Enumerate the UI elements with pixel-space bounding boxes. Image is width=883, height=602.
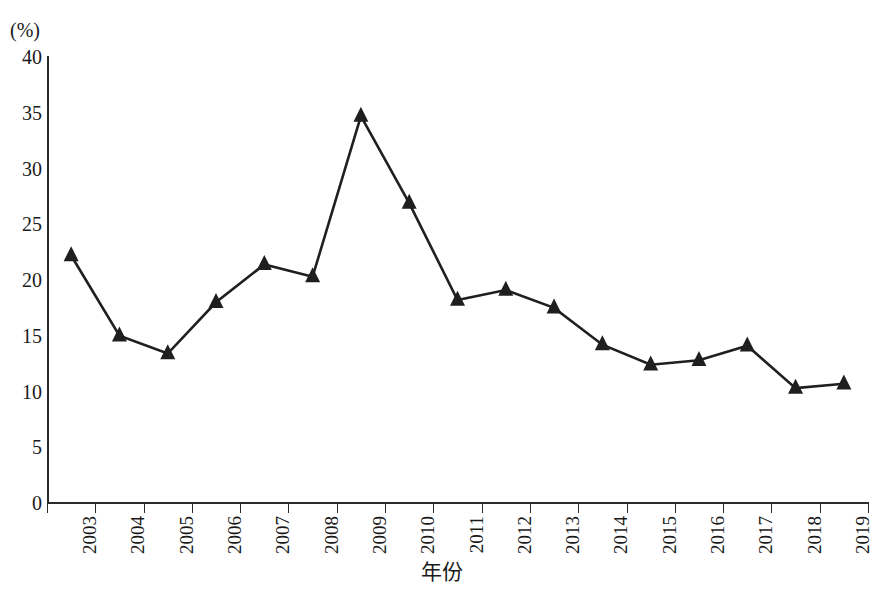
- x-tick-label-2016: 2016: [708, 516, 727, 554]
- x-tick-mark: [95, 504, 96, 513]
- x-tick-mark: [240, 504, 241, 513]
- y-tick-label-20: 20: [2, 270, 42, 290]
- line-series-svg: [47, 57, 868, 503]
- x-axis-title: 年份: [0, 562, 883, 583]
- x-tick-mark: [771, 504, 772, 513]
- x-tick-label-2003: 2003: [80, 516, 99, 554]
- data-point-2012: [498, 281, 513, 296]
- plot-area: [47, 57, 868, 503]
- x-tick-label-2014: 2014: [611, 516, 630, 554]
- x-tick-mark: [675, 504, 676, 513]
- x-tick-label-2015: 2015: [660, 516, 679, 554]
- data-point-2017: [740, 336, 755, 351]
- x-tick-label-2004: 2004: [128, 516, 147, 554]
- x-tick-label-2005: 2005: [177, 516, 196, 554]
- x-tick-label-2007: 2007: [273, 516, 292, 554]
- x-tick-mark: [47, 504, 48, 513]
- x-tick-mark: [288, 504, 289, 513]
- x-tick-mark: [482, 504, 483, 513]
- y-tick-label-35: 35: [2, 103, 42, 123]
- data-point-2006: [209, 293, 224, 308]
- data-point-2003: [64, 246, 79, 261]
- data-point-2014: [595, 335, 610, 350]
- x-tick-mark: [192, 504, 193, 513]
- x-tick-label-2018: 2018: [805, 516, 824, 554]
- y-tick-label-15: 15: [2, 326, 42, 346]
- y-tick-label-25: 25: [2, 214, 42, 234]
- chart-figure: (%) 0510152025303540 2003200420052006200…: [0, 0, 883, 602]
- x-tick-mark: [433, 504, 434, 513]
- x-tick-label-2010: 2010: [418, 516, 437, 554]
- x-tick-mark: [820, 504, 821, 513]
- x-tick-label-2009: 2009: [370, 516, 389, 554]
- y-axis-tick-labels: 0510152025303540: [0, 0, 42, 602]
- x-tick-mark: [723, 504, 724, 513]
- x-tick-mark: [530, 504, 531, 513]
- x-tick-label-2006: 2006: [225, 516, 244, 554]
- series-polyline: [71, 116, 844, 388]
- x-tick-label-2017: 2017: [756, 516, 775, 554]
- y-tick-label-40: 40: [2, 47, 42, 67]
- x-tick-label-2008: 2008: [322, 516, 341, 554]
- x-tick-mark: [144, 504, 145, 513]
- data-point-2007: [257, 255, 272, 270]
- x-tick-label-2013: 2013: [563, 516, 582, 554]
- y-tick-label-0: 0: [2, 493, 42, 513]
- x-tick-label-2019: 2019: [853, 516, 872, 554]
- x-tick-label-2011: 2011: [467, 516, 486, 553]
- data-point-2019: [836, 374, 851, 389]
- x-tick-label-2012: 2012: [515, 516, 534, 554]
- x-tick-mark: [627, 504, 628, 513]
- x-tick-mark: [385, 504, 386, 513]
- x-tick-mark: [868, 504, 869, 513]
- x-tick-mark: [578, 504, 579, 513]
- y-tick-label-5: 5: [2, 437, 42, 457]
- y-tick-label-30: 30: [2, 159, 42, 179]
- x-tick-mark: [337, 504, 338, 513]
- data-point-2018: [788, 379, 803, 394]
- data-point-2009: [353, 107, 368, 122]
- y-tick-label-10: 10: [2, 382, 42, 402]
